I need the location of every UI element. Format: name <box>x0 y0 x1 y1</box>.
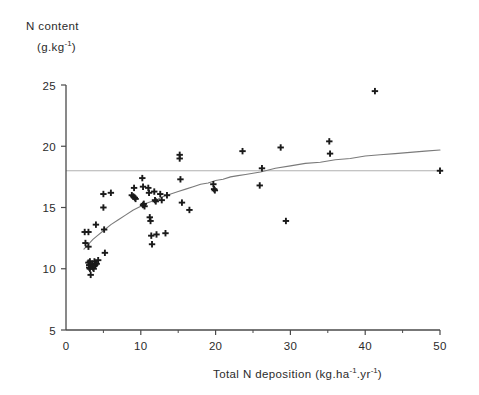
x-axis-label-mid: .yr <box>357 368 371 380</box>
y-tick-label-20: 20 <box>43 141 56 153</box>
data-point <box>437 168 443 174</box>
data-point <box>212 187 218 193</box>
data-point <box>186 207 192 213</box>
data-point <box>162 230 168 236</box>
x-axis-label: Total N deposition (kg.ha-1.yr-1) <box>213 366 382 380</box>
x-tick-label-30: 30 <box>284 340 297 352</box>
data-point <box>283 218 289 224</box>
data-point <box>131 185 137 191</box>
x-tick-label-40: 40 <box>358 340 371 352</box>
figure-container: N content (g.kg-1) 51015202501020304050 … <box>0 0 479 395</box>
data-point <box>176 155 182 161</box>
data-point <box>177 176 183 182</box>
y-tick-label-10: 10 <box>43 263 56 275</box>
data-point <box>153 231 159 237</box>
data-point <box>164 192 170 198</box>
y-tick-label-25: 25 <box>43 80 56 92</box>
data-point <box>326 138 332 144</box>
data-point <box>147 218 153 224</box>
x-axis-label-close: ) <box>378 368 382 380</box>
data-point <box>148 232 154 238</box>
data-point <box>139 175 145 181</box>
x-tick-label-10: 10 <box>134 340 147 352</box>
x-tick-label-0: 0 <box>63 340 70 352</box>
data-point <box>257 182 263 188</box>
y-tick-label-15: 15 <box>43 202 56 214</box>
y-tick-label-5: 5 <box>49 325 56 337</box>
data-point <box>239 148 245 154</box>
data-point <box>108 190 114 196</box>
data-point <box>100 191 106 197</box>
data-point <box>100 204 106 210</box>
data-point <box>277 144 283 150</box>
data-point <box>85 229 91 235</box>
data-point <box>102 250 108 256</box>
x-tick-label-50: 50 <box>433 340 446 352</box>
data-point <box>93 221 99 227</box>
data-point <box>149 241 155 247</box>
data-point <box>372 88 378 94</box>
data-point-group <box>82 88 444 278</box>
x-axis-label-exponent-2: -1 <box>371 366 378 375</box>
data-point <box>327 150 333 156</box>
data-point <box>87 272 93 278</box>
data-point <box>179 199 185 205</box>
x-axis-label-main: Total N deposition (kg.ha <box>213 368 350 380</box>
x-tick-label-20: 20 <box>209 340 222 352</box>
x-axis-label-exponent-1: -1 <box>350 366 357 375</box>
scatter-plot: 51015202501020304050 <box>0 0 479 395</box>
data-point <box>146 190 152 196</box>
data-point <box>151 188 157 194</box>
data-point <box>140 183 146 189</box>
